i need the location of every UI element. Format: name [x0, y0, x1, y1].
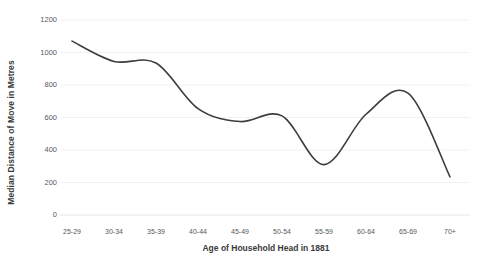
plot-area — [0, 0, 488, 265]
x-axis-tick-label: 60-64 — [345, 228, 387, 235]
chart-svg — [0, 0, 488, 265]
chart-container: Median Distance of Move in Metres 020040… — [0, 0, 488, 265]
x-axis-tick-label: 55-59 — [303, 228, 345, 235]
x-axis-tick-label: 35-39 — [135, 228, 177, 235]
x-axis-tick-label: 70+ — [429, 228, 471, 235]
x-axis-title: Age of Household Head in 1881 — [56, 243, 476, 253]
x-axis-tick-label: 40-44 — [177, 228, 219, 235]
gridlines — [60, 20, 470, 215]
x-axis-tick-label: 65-69 — [387, 228, 429, 235]
x-axis-tick-label: 50-54 — [261, 228, 303, 235]
x-axis-tick-label: 30-34 — [93, 228, 135, 235]
data-series-line — [72, 41, 450, 177]
x-axis-tick-label: 45-49 — [219, 228, 261, 235]
x-axis-tick-label: 25-29 — [51, 228, 93, 235]
